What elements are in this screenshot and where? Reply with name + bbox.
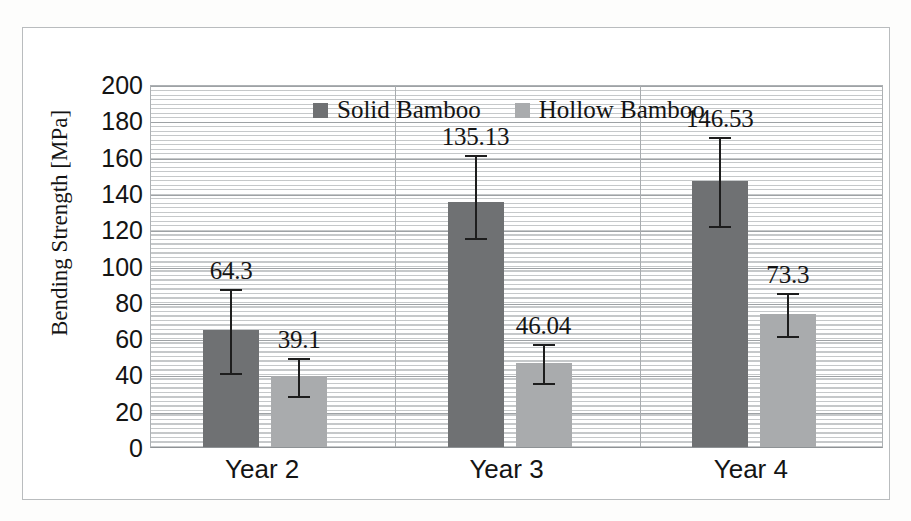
y-axis-tick-label: 100 <box>81 252 143 281</box>
x-axis-label-year-3: Year 3 <box>469 454 543 485</box>
y-axis-tick-label: 80 <box>81 288 143 317</box>
category-divider <box>395 86 396 447</box>
data-label: 46.04 <box>516 312 571 340</box>
legend-swatch-icon <box>515 103 530 118</box>
data-label: 135.13 <box>442 123 510 151</box>
chart-frame: Bending Strength [MPa] 20018016014012010… <box>22 27 890 500</box>
legend-item-solid-bamboo: Solid Bamboo <box>313 96 481 124</box>
y-axis-ticks: 200180160140120100806040200 <box>75 85 143 448</box>
legend-label: Hollow Bamboo <box>539 96 705 124</box>
x-axis-label-year-4: Year 4 <box>714 454 788 485</box>
y-axis-tick-label: 40 <box>81 361 143 390</box>
error-bar-cap-top <box>465 155 487 157</box>
x-axis-labels: Year 2Year 3Year 4 <box>150 454 883 494</box>
data-label: 39.1 <box>278 326 321 354</box>
y-axis-tick-label: 0 <box>81 434 143 463</box>
error-bar-cap-top <box>533 344 555 346</box>
legend-swatch-icon <box>313 103 328 118</box>
data-label: 64.3 <box>210 257 253 285</box>
error-bar-cap-top <box>777 293 799 295</box>
error-bar-cap-top <box>288 358 310 360</box>
data-label: 73.3 <box>766 261 809 289</box>
bar-year-3-hollow-bamboo <box>516 363 572 447</box>
y-axis-tick-label: 160 <box>81 143 143 172</box>
y-axis-tick-label: 20 <box>81 397 143 426</box>
gridline <box>151 86 882 87</box>
bar-year-2-solid-bamboo <box>203 330 259 447</box>
error-bar-cap-top <box>709 137 731 139</box>
plot-area: 64.339.1135.1346.04146.5373.3 <box>150 85 883 448</box>
legend-label: Solid Bamboo <box>337 96 481 124</box>
bar-year-4-hollow-bamboo <box>760 314 816 447</box>
y-axis-tick-label: 200 <box>81 71 143 100</box>
category-divider <box>640 86 641 447</box>
bar-year-2-hollow-bamboo <box>271 376 327 447</box>
y-axis-tick-label: 120 <box>81 216 143 245</box>
y-axis-title: Bending Strength [MPa] <box>47 73 73 373</box>
legend-item-hollow-bamboo: Hollow Bamboo <box>515 96 705 124</box>
y-axis-tick-label: 180 <box>81 107 143 136</box>
gridline <box>151 304 882 305</box>
x-axis-label-year-2: Year 2 <box>225 454 299 485</box>
figure-page: Bending Strength [MPa] 20018016014012010… <box>0 0 911 521</box>
y-axis-tick-label: 140 <box>81 179 143 208</box>
gridline <box>151 231 882 232</box>
chart-legend: Solid BambooHollow Bamboo <box>313 96 705 124</box>
y-axis-tick-label: 60 <box>81 325 143 354</box>
error-bar-cap-top <box>220 289 242 291</box>
gridline <box>151 159 882 160</box>
gridline <box>151 195 882 196</box>
bar-year-4-solid-bamboo <box>692 181 748 447</box>
bar-year-3-solid-bamboo <box>448 202 504 447</box>
